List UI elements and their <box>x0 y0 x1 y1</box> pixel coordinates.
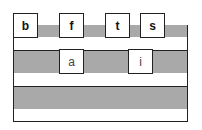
row-3-band <box>13 50 188 74</box>
box-f: f <box>59 13 84 38</box>
box-b-label: b <box>22 19 29 33</box>
box-i: i <box>128 49 153 74</box>
row-5-band <box>13 86 188 110</box>
box-b: b <box>13 13 38 38</box>
box-s: s <box>140 13 165 38</box>
box-s-label: s <box>149 19 156 33</box>
frame-left-edge <box>13 25 14 122</box>
row-4-band <box>13 73 188 86</box>
row-6-band <box>13 109 188 122</box>
box-t-label: t <box>116 19 120 33</box>
box-t: t <box>105 13 130 38</box>
box-a: a <box>59 49 84 74</box>
box-a-label: a <box>68 55 75 69</box>
box-i-label: i <box>139 55 142 69</box>
frame-right-edge <box>187 25 188 122</box>
row-2-band <box>13 37 188 50</box>
box-f-label: f <box>70 19 74 33</box>
